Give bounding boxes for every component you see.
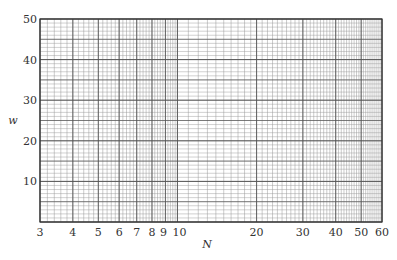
- x-tick-label: 40: [329, 226, 343, 239]
- x-tick-label: 8: [148, 226, 155, 239]
- x-tick-label: 3: [37, 226, 44, 239]
- y-tick-label: 40: [23, 54, 37, 67]
- y-tick-label: 30: [23, 94, 37, 107]
- x-axis-label: N: [201, 238, 212, 251]
- major-grid: [40, 19, 382, 222]
- x-axis-tick-labels: 3456789102030405060: [37, 226, 390, 239]
- x-tick-label: 5: [95, 226, 102, 239]
- x-tick-label: 50: [354, 226, 368, 239]
- x-tick-label: 9: [160, 226, 167, 239]
- x-tick-label: 30: [296, 226, 310, 239]
- y-tick-label: 10: [23, 175, 37, 188]
- y-axis-tick-labels: 1020304050: [23, 13, 37, 188]
- x-tick-label: 20: [250, 226, 264, 239]
- y-axis-label: w: [8, 114, 18, 127]
- x-tick-label: 60: [375, 226, 389, 239]
- x-tick-label: 7: [133, 226, 140, 239]
- x-tick-label: 4: [69, 226, 76, 239]
- x-tick-label: 6: [116, 226, 123, 239]
- x-tick-label: 10: [172, 226, 186, 239]
- y-tick-label: 50: [23, 13, 37, 26]
- y-tick-label: 20: [23, 135, 37, 148]
- semilog-grid-chart: 3456789102030405060 1020304050 N w: [0, 0, 397, 260]
